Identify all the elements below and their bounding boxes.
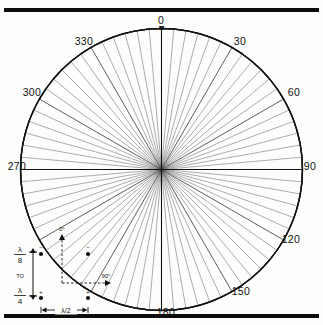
element-top-right-dot bbox=[86, 252, 90, 256]
direction-0-label: 0° bbox=[59, 226, 64, 232]
height-upper-label: λ 8 bbox=[14, 245, 26, 265]
angle-label-30: 30 bbox=[234, 35, 246, 47]
lambda-8-denominator: 8 bbox=[18, 256, 23, 265]
phase-bottom-right: + bbox=[86, 289, 89, 295]
angle-label-300: 300 bbox=[23, 86, 42, 98]
angle-label-180: 180 bbox=[157, 306, 176, 318]
spacing-label: λ/2 bbox=[61, 307, 70, 314]
phase-bottom-left: + bbox=[39, 289, 42, 295]
angle-label-0: 0 bbox=[158, 14, 164, 26]
radial-tick-labels: 2 4 6 8 10 20 30 40 50 bbox=[159, 26, 165, 31]
angle-label-120: 120 bbox=[282, 233, 301, 245]
height-lower-label: λ 4 bbox=[14, 286, 26, 306]
lambda-4-numerator: λ bbox=[18, 286, 22, 295]
height-dimension-bar bbox=[29, 248, 37, 300]
angle-label-330: 330 bbox=[75, 35, 94, 47]
db-tick-50: 50 bbox=[159, 26, 165, 31]
lambda-8-numerator: λ bbox=[18, 245, 22, 254]
polar-chart-svg: 2 4 6 8 10 20 30 40 50 0 30 60 90 120 15… bbox=[0, 0, 323, 325]
lambda-4-denominator: 4 bbox=[18, 297, 23, 306]
element-top-left-dot bbox=[39, 252, 43, 256]
angle-label-90: 90 bbox=[304, 160, 316, 172]
spacing-dimension: λ/2 bbox=[41, 306, 88, 315]
polar-chart: 2 4 6 8 10 20 30 40 50 0 30 60 90 120 15… bbox=[0, 0, 323, 325]
angle-label-60: 60 bbox=[288, 86, 300, 98]
element-bottom-right-dot bbox=[86, 296, 90, 300]
to-text: TO bbox=[16, 273, 24, 279]
figure-page: 2 4 6 8 10 20 30 40 50 0 30 60 90 120 15… bbox=[0, 0, 323, 325]
angle-label-150: 150 bbox=[232, 285, 251, 297]
element-bottom-left-dot bbox=[39, 296, 43, 300]
direction-90-label: 90° bbox=[102, 273, 110, 279]
direction-reference-axes: 0° 90° bbox=[59, 226, 111, 286]
angle-label-270: 270 bbox=[8, 160, 27, 172]
arrow-0-deg bbox=[59, 234, 65, 240]
phase-top-left: − bbox=[39, 244, 42, 250]
arrow-90-deg bbox=[105, 280, 111, 286]
phase-top-right: − bbox=[86, 244, 89, 250]
